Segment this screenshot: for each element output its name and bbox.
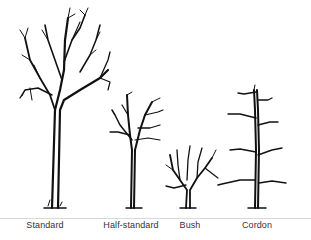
label-half-standard: Half-standard [103,220,158,230]
label-bush: Bush [180,220,201,230]
half-standard-tree-icon [110,92,163,208]
ground-line [0,218,311,219]
cordon-tree-icon [218,85,286,208]
label-cordon: Cordon [242,220,272,230]
standard-tree-icon [20,8,110,208]
label-standard: Standard [26,220,63,230]
bush-tree-icon [166,146,218,208]
tree-illustrations [0,0,311,218]
